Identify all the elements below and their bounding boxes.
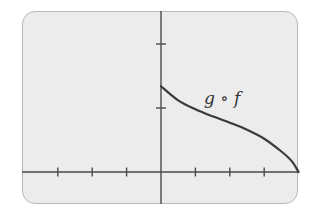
- curve-label: g ∘ f: [204, 88, 243, 108]
- chart-svg: g ∘ f: [0, 0, 319, 218]
